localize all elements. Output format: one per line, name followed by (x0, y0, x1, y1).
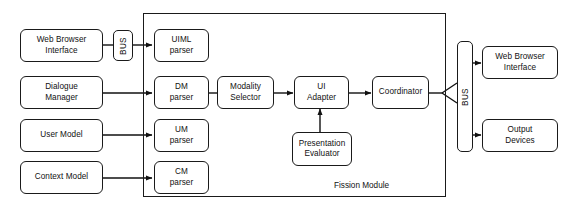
output-web-browser-interface-line1: Web Browser (495, 52, 545, 63)
uiml-parser-line1: UIML (172, 35, 192, 46)
bus-left-label: BUS (119, 37, 128, 55)
bus-left[interactable]: BUS (113, 30, 133, 61)
input-web-browser-interface[interactable]: Web Browser Interface (20, 29, 103, 62)
input-user-model[interactable]: User Model (20, 119, 103, 152)
dm-parser[interactable]: DM parser (154, 76, 209, 109)
dm-parser-line1: DM (175, 82, 188, 93)
input-dialogue-manager[interactable]: Dialogue Manager (20, 76, 103, 109)
output-devices-line2: Devices (505, 136, 534, 147)
modality-selector[interactable]: Modality Selector (217, 76, 274, 109)
ui-adapter-line2: Adapter (307, 93, 336, 104)
presentation-evaluator[interactable]: Presentation Evaluator (292, 132, 352, 166)
presentation-evaluator-line1: Presentation (299, 139, 346, 150)
ui-adapter-line1: UI (317, 82, 325, 93)
output-devices-line1: Output (508, 125, 533, 136)
output-devices[interactable]: Output Devices (482, 119, 558, 152)
ui-adapter[interactable]: UI Adapter (294, 76, 349, 109)
input-user-model-line1: User Model (40, 130, 82, 141)
input-dialogue-manager-line2: Manager (45, 93, 78, 104)
input-web-browser-interface-line2: Interface (45, 46, 77, 57)
um-parser[interactable]: UM parser (154, 119, 209, 152)
uiml-parser[interactable]: UIML parser (154, 29, 209, 62)
coordinator-line1: Coordinator (379, 87, 422, 98)
input-dialogue-manager-line1: Dialogue (45, 82, 78, 93)
output-web-browser-interface[interactable]: Web Browser Interface (482, 46, 558, 79)
um-parser-line1: UM (175, 125, 188, 136)
cm-parser-line2: parser (170, 178, 194, 189)
modality-selector-line2: Selector (230, 93, 260, 104)
fission-module-label: Fission Module (334, 181, 389, 190)
input-context-model-line1: Context Model (35, 172, 88, 183)
um-parser-line2: parser (170, 136, 194, 147)
coordinator[interactable]: Coordinator (372, 76, 429, 109)
uiml-parser-line2: parser (170, 46, 194, 57)
modality-selector-line1: Modality (230, 82, 261, 93)
architecture-diagram: Fission Module Web Browser Interface Dia… (0, 0, 576, 212)
input-context-model[interactable]: Context Model (20, 161, 103, 194)
input-web-browser-interface-line1: Web Browser (37, 35, 87, 46)
cm-parser[interactable]: CM parser (154, 161, 209, 194)
output-web-browser-interface-line2: Interface (504, 63, 536, 74)
dm-parser-line2: parser (170, 93, 194, 104)
bus-right-label: BUS (461, 88, 470, 106)
bus-right[interactable]: BUS (457, 41, 473, 152)
presentation-evaluator-line2: Evaluator (304, 149, 339, 160)
cm-parser-line1: CM (175, 167, 188, 178)
